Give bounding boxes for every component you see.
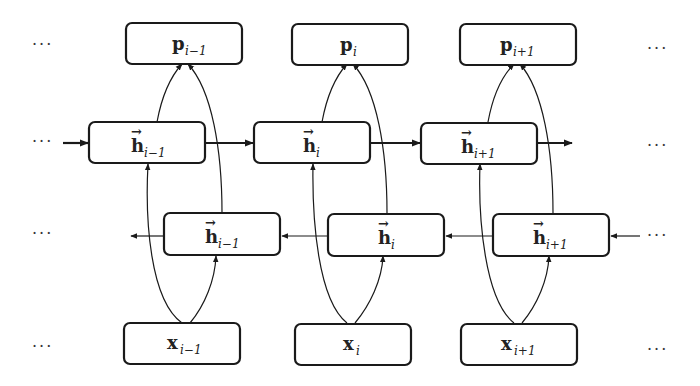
ellipsis-left-backward: ···: [32, 224, 53, 243]
node-symbol: p: [172, 33, 185, 54]
node-bh-i: → h i: [328, 214, 444, 256]
node-subscript: i−1: [144, 146, 166, 160]
node-symbol: h: [533, 227, 546, 248]
node-subscript: i−1: [218, 237, 240, 251]
node-fh-ip1: → h i+1: [421, 123, 537, 164]
edge-fh-i-to-p: [322, 64, 347, 122]
ellipsis-left-forward: ···: [32, 132, 53, 151]
ellipsis-left-outputs: ···: [32, 35, 53, 54]
birnn-diagram: p i−1 p i p i+1 → h i−1 → h i →: [0, 0, 700, 386]
backward-hidden-row: → h i−1 → h i → h i+1: [164, 213, 609, 256]
node-subscript: i: [356, 344, 360, 358]
node-subscript: i+1: [474, 147, 496, 161]
node-bh-ip1: → h i+1: [493, 214, 609, 256]
node-subscript: i+1: [546, 238, 568, 252]
node-symbol: x: [167, 332, 178, 353]
node-subscript: i−1: [180, 343, 202, 357]
node-subscript: i: [316, 146, 320, 160]
node-x-i: x i: [295, 324, 411, 365]
edge-fh-im1-to-p: [157, 64, 182, 122]
node-p-i: p i: [292, 24, 408, 65]
ellipsis-right-inputs: ···: [647, 340, 668, 359]
node-fh-i: → h i: [254, 122, 370, 163]
node-symbol: h: [131, 135, 144, 156]
node-fh-im1: → h i−1: [89, 122, 205, 163]
ellipsis-right-forward: ···: [647, 136, 668, 155]
node-x-im1: x i−1: [124, 323, 240, 364]
node-subscript: i+1: [513, 45, 535, 59]
node-symbol: h: [205, 226, 218, 247]
node-symbol: p: [340, 34, 353, 55]
node-subscript: i+1: [514, 344, 536, 358]
node-subscript: i: [391, 238, 395, 252]
node-p-im1: p i−1: [126, 23, 242, 64]
edge-fh-ip1-to-p: [488, 64, 514, 122]
ellipses: ··· ··· ··· ··· ··· ··· ··· ···: [32, 35, 668, 359]
forward-hidden-row: → h i−1 → h i → h i+1: [89, 122, 537, 164]
ellipsis-right-backward: ···: [647, 226, 668, 245]
node-symbol: p: [500, 34, 513, 55]
node-bh-im1: → h i−1: [164, 213, 280, 255]
input-row: x i−1 x i x i+1: [124, 323, 577, 365]
node-symbol: x: [501, 333, 512, 354]
node-x-ip1: x i+1: [461, 324, 577, 365]
node-subscript: i: [353, 45, 357, 59]
output-row: p i−1 p i p i+1: [126, 23, 576, 65]
node-symbol: x: [343, 333, 354, 354]
node-symbol: h: [378, 227, 391, 248]
edge-x-ip1-to-bh: [522, 256, 549, 323]
node-symbol: h: [303, 135, 316, 156]
node-symbol: h: [461, 136, 474, 157]
node-p-ip1: p i+1: [460, 24, 576, 65]
node-subscript: i−1: [185, 44, 207, 58]
edge-x-im1-to-bh: [190, 256, 216, 323]
ellipsis-right-outputs: ···: [647, 39, 668, 58]
ellipsis-left-inputs: ···: [32, 337, 53, 356]
edge-x-i-to-bh: [355, 256, 383, 323]
